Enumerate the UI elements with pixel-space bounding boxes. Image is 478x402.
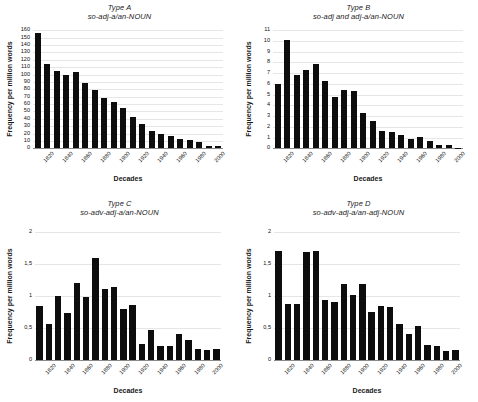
y-tick-label: 0: [268, 357, 271, 363]
y-tick-label: 60: [24, 101, 30, 107]
bar: [370, 121, 376, 148]
x-tick-label: 1980: [193, 363, 206, 376]
y-tick-label: 140: [21, 42, 30, 48]
bar: [149, 131, 155, 149]
bar: [313, 251, 319, 360]
x-tick-label: 1920: [378, 151, 391, 164]
bar: [275, 84, 281, 148]
y-tick-label: 0,5: [24, 325, 32, 331]
chart-panel-type-b: Type B so-adj and adj-a/an-NOUN Frequenc…: [239, 0, 478, 201]
bar: [185, 340, 191, 360]
chart-panel-type-c: Type C so-adv-adj-a/an-NOUN Frequency pe…: [0, 196, 239, 397]
x-tick-label: 1920: [138, 363, 151, 376]
bar: [443, 351, 449, 360]
bar: [313, 64, 319, 149]
x-tick-label: 1820: [284, 363, 297, 376]
bar: [415, 326, 421, 360]
y-tick-label: 80: [24, 86, 30, 92]
bar: [398, 135, 404, 148]
bar: [54, 71, 60, 148]
bar: [351, 91, 357, 148]
bar: [359, 284, 365, 360]
bar: [92, 90, 98, 148]
bar: [452, 350, 458, 360]
bar: [285, 304, 291, 360]
bar: [396, 324, 402, 360]
y-axis-ticks: 00,511,52: [11, 232, 32, 360]
bar: [111, 102, 117, 148]
bar: [341, 284, 347, 360]
y-tick-label: 110: [21, 64, 30, 70]
bar: [294, 75, 300, 148]
y-tick-label: 1: [29, 293, 32, 299]
x-tick-label: 2000: [212, 363, 225, 376]
panel-b-titles: Type B so-adj and adj-a/an-NOUN: [239, 0, 478, 21]
y-axis-ticks: 01234567891011: [249, 30, 270, 148]
bar: [204, 350, 210, 360]
bar: [436, 145, 442, 149]
bar: [368, 312, 374, 360]
bar: [341, 90, 347, 148]
y-tick-label: 10: [264, 38, 270, 44]
bar-series: [35, 232, 221, 360]
bar: [389, 132, 395, 148]
plot-area: [274, 232, 460, 361]
bar: [82, 83, 88, 148]
chart-panel-type-a: Type A so-adj-a/an-NOUN Frequency per mi…: [0, 0, 239, 201]
y-tick-label: 1,5: [24, 261, 32, 267]
bar: [195, 349, 201, 361]
chart-subtitle: so-adj and adj-a/an-NOUN: [239, 13, 478, 22]
panel-d-titles: Type D so-adv-adj-a/an-adj-NOUN: [239, 196, 478, 217]
bar: [63, 75, 69, 149]
x-tick-label: 1960: [414, 363, 427, 376]
bar: [83, 297, 89, 360]
bar: [176, 334, 182, 360]
x-tick-label: 1960: [175, 363, 188, 376]
bar: [408, 139, 414, 148]
bar: [455, 148, 461, 149]
y-tick-label: 1: [268, 293, 271, 299]
bar: [139, 124, 145, 148]
y-tick-label: 11: [264, 27, 270, 33]
x-tick-label: 1900: [358, 363, 371, 376]
y-tick-label: 3: [267, 113, 270, 119]
y-tick-label: 9: [267, 49, 270, 55]
y-tick-label: 4: [267, 103, 270, 109]
y-tick-label: 7: [267, 70, 270, 76]
y-axis-ticks: 0102030405060708090100110120130140150160: [9, 30, 30, 148]
y-axis-ticks: 00,511,52: [250, 232, 271, 360]
bar: [168, 136, 174, 149]
x-tick-label: 1860: [321, 363, 334, 376]
panel-c-titles: Type C so-adv-adj-a/an-NOUN: [0, 196, 239, 217]
y-tick-label: 150: [21, 35, 30, 41]
bar: [158, 134, 164, 149]
y-tick-label: 2: [29, 229, 32, 235]
bar: [322, 300, 328, 360]
y-tick-label: 70: [24, 94, 30, 100]
bar-series: [273, 30, 463, 148]
plot-area: [273, 30, 463, 149]
x-tick-label: 1920: [138, 151, 151, 164]
bar: [379, 131, 385, 148]
bar: [294, 304, 300, 360]
y-tick-label: 160: [21, 27, 30, 33]
bar: [213, 349, 219, 361]
bar: [360, 113, 366, 148]
bar: [446, 145, 452, 148]
bar: [275, 251, 281, 360]
y-tick-label: 1,5: [263, 261, 271, 267]
bar: [167, 346, 173, 361]
bar: [331, 302, 337, 360]
chart-subtitle: so-adj-a/an-NOUN: [0, 13, 239, 22]
y-tick-label: 0: [267, 145, 270, 151]
bar: [424, 345, 430, 360]
x-tick-label: 1920: [377, 363, 390, 376]
y-tick-label: 20: [24, 131, 30, 137]
bar: [148, 330, 154, 360]
y-tick-label: 2: [267, 124, 270, 130]
y-tick-label: 90: [24, 79, 30, 85]
bar: [303, 70, 309, 148]
bar: [46, 324, 52, 360]
bar: [120, 108, 126, 149]
chart-subtitle: so-adv-adj-a/an-NOUN: [0, 209, 239, 218]
